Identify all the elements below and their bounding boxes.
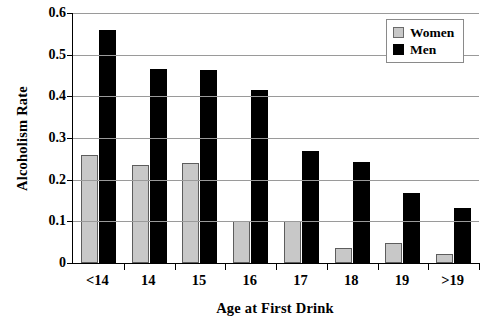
x-axis-tick-label: >19	[423, 272, 483, 289]
x-axis-tick-labels: <14141516171819>19	[72, 272, 478, 292]
legend: WomenMen	[386, 19, 464, 63]
y-axis-tick-labels: 00.10.20.30.40.50.6	[20, 13, 66, 263]
bar-women-19	[385, 243, 402, 263]
y-axis-tick-label: 0.5	[20, 48, 66, 62]
x-axis-tick-mark	[225, 263, 226, 270]
bar-men-16	[251, 90, 268, 263]
gridline	[73, 96, 479, 97]
x-axis-tick-mark	[124, 263, 125, 270]
y-axis-tick-mark	[67, 138, 73, 139]
legend-swatch-icon	[393, 44, 404, 55]
gridline	[73, 138, 479, 139]
legend-item-men: Men	[393, 41, 454, 58]
y-axis-tick-label: 0.6	[20, 6, 66, 20]
bar-men-17	[302, 151, 319, 264]
alcoholism-rate-bar-chart: Alcoholism Rate 00.10.20.30.40.50.6 <141…	[0, 0, 494, 328]
gridline	[73, 13, 479, 14]
bar-women-16	[233, 221, 250, 264]
gridline	[73, 221, 479, 222]
y-axis-tick-mark	[67, 96, 73, 97]
bar-men-19	[403, 193, 420, 263]
bar-men-18	[353, 162, 370, 263]
bar-men-over19	[454, 208, 471, 263]
y-axis-tick-label: 0.2	[20, 173, 66, 187]
y-axis-tick-mark	[67, 13, 73, 14]
legend-label: Women	[410, 26, 454, 40]
legend-label: Men	[410, 43, 436, 57]
bar-women-under14	[81, 155, 98, 263]
y-axis-tick-label: 0.3	[20, 131, 66, 145]
x-axis-tick-mark	[327, 263, 328, 270]
y-axis-tick-mark	[67, 221, 73, 222]
bar-women-18	[335, 248, 352, 263]
gridline	[73, 180, 479, 181]
bar-women-over19	[436, 254, 453, 263]
bar-women-17	[284, 221, 301, 264]
x-axis-tick-mark	[175, 263, 176, 270]
legend-swatch-icon	[393, 27, 404, 38]
x-axis-tick-mark	[378, 263, 379, 270]
bar-women-15	[182, 163, 199, 263]
y-axis-tick-label: 0.1	[20, 214, 66, 228]
legend-item-women: Women	[393, 24, 454, 41]
bar-men-under14	[99, 30, 116, 263]
bar-men-14	[150, 69, 167, 263]
x-axis-tick-mark	[479, 263, 480, 270]
y-axis-tick-mark	[67, 263, 73, 264]
y-axis-tick-mark	[67, 180, 73, 181]
y-axis-tick-mark	[67, 55, 73, 56]
y-axis-tick-label: 0.4	[20, 89, 66, 103]
x-axis-title: Age at First Drink	[72, 300, 478, 317]
x-axis-tick-mark	[276, 263, 277, 270]
bar-men-15	[200, 70, 217, 263]
x-axis-tick-mark	[428, 263, 429, 270]
y-axis-tick-label: 0	[20, 256, 66, 270]
